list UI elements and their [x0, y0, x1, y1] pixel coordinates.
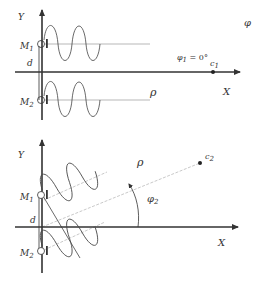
microphone-array-diagram: Y X M1 M2 d ρ φ φ1 = 0° c1: [0, 0, 259, 285]
top-angle-label: φ: [244, 17, 251, 28]
top-source-c1: [211, 70, 215, 74]
bottom-wave-m2: [36, 210, 101, 265]
bottom-spacing-label: d: [30, 215, 36, 225]
bottom-panel: Y X M1 M2 d ρ φ2 c2: [15, 140, 238, 273]
top-mic2-label: M2: [19, 97, 34, 109]
bottom-distance-label: ρ: [136, 156, 144, 169]
top-mic1-label: M1: [19, 41, 34, 53]
bottom-y-axis-label: Y: [18, 150, 25, 160]
bottom-mic2-label: M2: [19, 248, 34, 260]
top-panel: Y X M1 M2 d ρ φ φ1 = 0° c1: [15, 10, 251, 120]
top-distance-label: ρ: [149, 86, 157, 99]
bottom-source-c2: [198, 161, 202, 165]
top-angle-value-label: φ1 = 0°: [177, 53, 208, 64]
bottom-angle-label: φ2: [147, 193, 159, 206]
bottom-x-axis-label: X: [217, 237, 226, 248]
top-wave-m1: [44, 25, 100, 60]
bottom-angle-arc: [129, 184, 139, 227]
bottom-mic1-label: M1: [19, 192, 34, 204]
bottom-source-label: c2: [205, 152, 214, 163]
top-spacing-label: d: [27, 58, 33, 68]
top-wave-m2: [44, 81, 100, 116]
top-y-axis-label: Y: [18, 12, 25, 22]
top-x-axis-label: X: [222, 86, 231, 97]
bottom-ray-main: [42, 163, 200, 227]
top-source-label: c1: [210, 59, 219, 70]
